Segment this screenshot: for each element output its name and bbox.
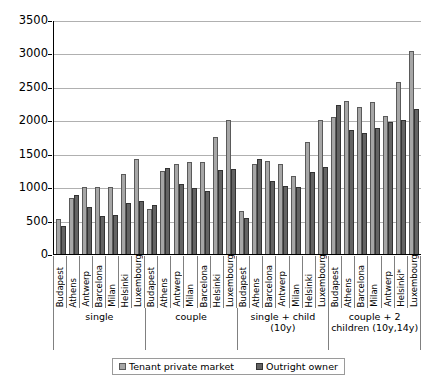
category-label: Antwerp	[383, 271, 393, 307]
bar-pair	[146, 21, 159, 254]
category-label-cell: Budapest	[329, 256, 342, 308]
category-label-cell: Helsinki	[119, 256, 132, 308]
group-label: single + child (10y)	[238, 308, 330, 350]
chart-legend: Tenant private marketOutright owner	[112, 358, 345, 375]
category-label: Helsinki	[120, 274, 130, 307]
category-group: BudapestAthensAntwerpMilanBarcelonaHelsi…	[145, 256, 237, 308]
y-tick-mark	[48, 121, 52, 122]
legend-label: Outright owner	[266, 361, 338, 372]
bar-pair	[238, 21, 251, 254]
category-label: Milan	[185, 284, 195, 307]
y-tick-mark	[48, 21, 52, 22]
bar-outright-owner	[74, 195, 79, 255]
bar-outright-owner	[100, 216, 105, 254]
category-label: Helsinki	[212, 274, 222, 307]
y-tick-label: 3500	[19, 15, 48, 27]
category-label: Athens	[343, 278, 353, 307]
y-tick-label: 1000	[19, 182, 48, 194]
bar-group	[54, 21, 146, 254]
bar-pair	[133, 21, 146, 254]
y-tick-mark	[48, 54, 52, 55]
bar-outright-owner	[126, 203, 131, 254]
category-label: Antwerp	[81, 271, 91, 307]
category-label-cell: Milan	[290, 256, 303, 308]
category-label: Antwerp	[277, 271, 287, 307]
y-tick-mark	[48, 255, 52, 256]
category-label-cell: Helsinki	[303, 256, 316, 308]
category-label: Budapest	[238, 267, 248, 307]
category-label: Luxembourg	[317, 254, 327, 307]
category-label: Luxembourg	[225, 254, 235, 307]
group-label: single	[53, 308, 146, 350]
bar-pair	[251, 21, 264, 254]
bar-pair	[80, 21, 93, 254]
category-label: Milan	[291, 284, 301, 307]
bar-outright-owner	[179, 184, 184, 254]
bar-pair	[93, 21, 106, 254]
category-axis-labels: BudapestAthensAntwerpBarcelonaMilanHelsi…	[53, 256, 421, 308]
bar-pair	[395, 21, 408, 254]
bar-pair	[329, 21, 342, 254]
category-label: Athens	[251, 278, 261, 307]
bar-outright-owner	[205, 191, 210, 255]
bar-outright-owner	[270, 181, 275, 254]
bar-outright-owner	[349, 130, 354, 254]
bar-pair	[264, 21, 277, 254]
category-label: Budapest	[55, 267, 65, 307]
category-label-cell: Antwerp	[276, 256, 289, 308]
bar-outright-owner	[414, 109, 419, 254]
y-tick-label: 2000	[19, 115, 48, 127]
bar-pair	[355, 21, 368, 254]
category-label-cell: Milan	[106, 256, 119, 308]
bar-outright-owner	[139, 201, 144, 254]
category-label: Athens	[68, 278, 78, 307]
category-label-cell: Budapest	[53, 256, 67, 308]
bar-pair	[54, 21, 67, 254]
bar-group	[329, 21, 421, 254]
category-label-cell: Barcelona	[355, 256, 368, 308]
category-label-cell: Luxembourg	[224, 256, 237, 308]
category-label-cell: Antwerp	[382, 256, 395, 308]
category-label-cell: Helsinki	[211, 256, 224, 308]
bar-pair	[277, 21, 290, 254]
bar-pair	[382, 21, 395, 254]
category-label-cell: Antwerp	[171, 256, 184, 308]
category-group: BudapestAthensAntwerpBarcelonaMilanHelsi…	[53, 256, 145, 308]
bar-outright-owner	[113, 215, 118, 254]
category-label: Milan	[369, 284, 379, 307]
category-label: Budapest	[330, 267, 340, 307]
y-tick-mark	[48, 188, 52, 189]
legend-item: Tenant private market	[119, 361, 234, 372]
bar-pair	[290, 21, 303, 254]
bar-pair	[408, 21, 421, 254]
bar-outright-owner	[87, 207, 92, 254]
bar-pair	[316, 21, 329, 254]
y-tick-label: 500	[26, 216, 48, 228]
category-label: Luxembourg	[409, 254, 419, 307]
category-label: Milan	[107, 284, 117, 307]
category-label: Antwerp	[172, 271, 182, 307]
category-label-cell: Luxembourg	[316, 256, 329, 308]
category-label-cell: Milan	[368, 256, 381, 308]
bar-outright-owner	[192, 188, 197, 254]
bar-outright-owner	[152, 205, 157, 254]
bar-outright-owner	[375, 128, 380, 254]
category-label: Athens	[159, 278, 169, 307]
category-label-cell: Athens	[67, 256, 80, 308]
category-label-cell: Athens	[342, 256, 355, 308]
bar-pair	[198, 21, 211, 254]
tenant-swatch	[119, 363, 126, 370]
bar-outright-owner	[296, 187, 301, 254]
category-label: Barcelona	[264, 265, 274, 307]
bar-pair	[211, 21, 224, 254]
category-label-cell: Barcelona	[263, 256, 276, 308]
y-tick-label: 1500	[19, 149, 48, 161]
category-label-cell: Luxembourg	[408, 256, 421, 308]
category-label-cell: Barcelona	[198, 256, 211, 308]
bar-chart: 0500100015002000250030003500 BudapestAth…	[0, 0, 429, 386]
category-label-cell: Antwerp	[80, 256, 93, 308]
group-axis-labels: singlecouplesingle + child (10y)couple +…	[53, 308, 421, 350]
legend-label: Tenant private market	[129, 361, 234, 372]
y-tick-label: 0	[41, 249, 48, 261]
bar-pair	[342, 21, 355, 254]
